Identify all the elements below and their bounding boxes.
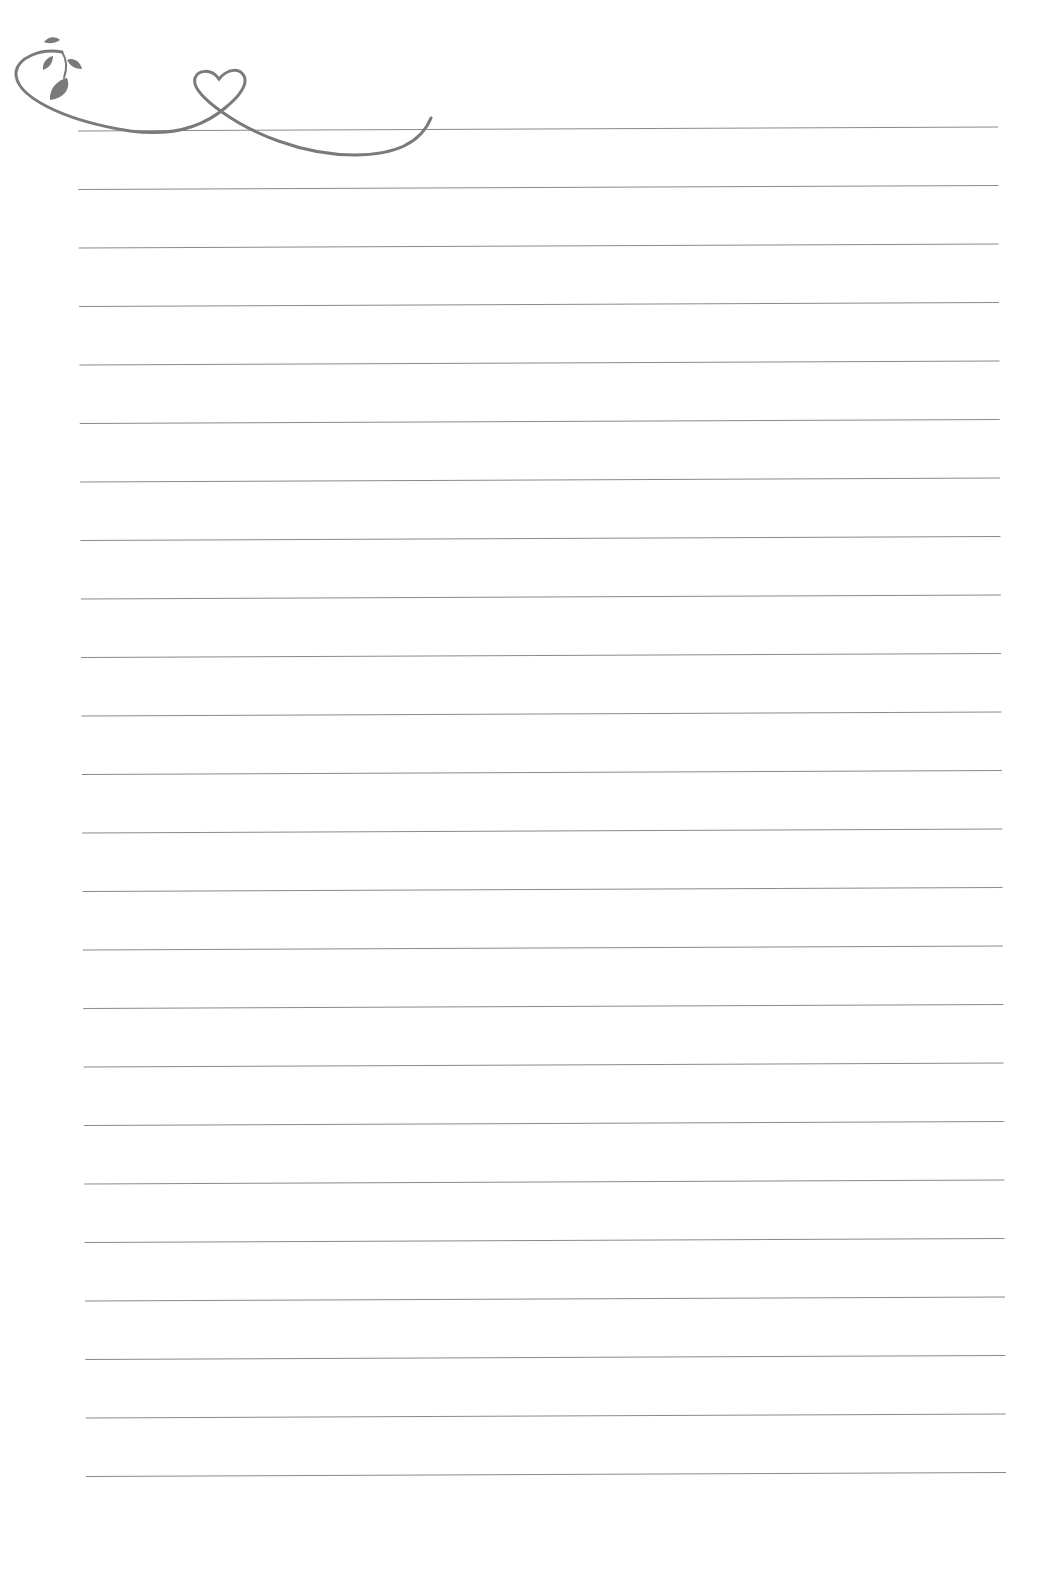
ruled-line: [81, 595, 1001, 599]
vine-icon: [62, 52, 66, 78]
ruled-line: [82, 771, 1002, 775]
ruled-line: [80, 537, 1000, 541]
ruled-line: [82, 829, 1002, 833]
leaf-icon: [44, 37, 60, 43]
leaf-icon: [50, 78, 68, 100]
ruled-line: [83, 946, 1003, 950]
ruled-line: [86, 1414, 1006, 1418]
ruled-line: [80, 420, 1000, 424]
ruled-line: [85, 1356, 1005, 1360]
ruled-line: [86, 1473, 1006, 1477]
ruled-line: [79, 244, 999, 248]
heart-icon: [195, 70, 431, 155]
ruled-line: [84, 1122, 1004, 1126]
ruled-line: [84, 1063, 1004, 1067]
ruled-line: [79, 361, 999, 365]
ruled-line: [85, 1297, 1005, 1301]
ruled-line: [81, 654, 1001, 658]
leaf-icon: [67, 59, 82, 69]
ruled-line: [80, 478, 1000, 482]
lined-paper: [0, 0, 1060, 1587]
leaf-icon: [43, 56, 53, 70]
ruled-line: [84, 1180, 1004, 1184]
ruled-line: [83, 1005, 1003, 1009]
ruled-line: [79, 303, 999, 307]
ruled-line: [85, 1239, 1005, 1243]
ruled-line: [78, 127, 998, 131]
ruled-lines: [78, 127, 1006, 1477]
ruled-line: [78, 186, 998, 190]
ruled-line: [82, 712, 1002, 716]
vine-heart-ornament: [16, 37, 431, 155]
ruled-line: [83, 888, 1003, 892]
